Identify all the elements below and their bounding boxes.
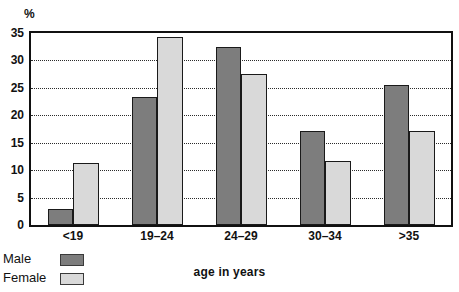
x-tick-label-3: 30–34 (308, 230, 341, 242)
y-tick-label-20: 20 (11, 109, 24, 121)
bar-male-24–29 (216, 47, 242, 225)
y-tick-label-35: 35 (11, 27, 24, 39)
x-axis-title: age in years (0, 265, 459, 279)
x-tick-label-4: >35 (399, 230, 419, 242)
bar-male-<19 (48, 209, 74, 225)
bar-male-19–24 (132, 97, 158, 225)
chart-plot-frame (29, 31, 453, 227)
bar-female-30–34 (325, 161, 351, 225)
bar-female-19–24 (157, 37, 183, 225)
bar-male->35 (384, 85, 410, 225)
y-tick-label-15: 15 (11, 137, 24, 149)
legend-label-male: Male (3, 252, 31, 266)
bar-group (31, 33, 115, 225)
x-tick-label-1: 19–24 (140, 230, 173, 242)
y-tick-label-25: 25 (11, 82, 24, 94)
chart-plot-area (31, 33, 451, 225)
y-tick-label-5: 5 (17, 192, 24, 204)
x-tick-label-2: 24–29 (224, 230, 257, 242)
bar-male-30–34 (300, 131, 326, 225)
bar-female-24–29 (241, 74, 267, 225)
bar-female->35 (409, 131, 435, 225)
x-tick-label-0: <19 (63, 230, 83, 242)
y-tick-label-10: 10 (11, 164, 24, 176)
y-tick-label-0: 0 (17, 219, 24, 231)
y-axis-tick-labels: 05101520253035 (0, 31, 27, 227)
x-axis-tick-labels: <1919–2424–2930–34>35 (29, 230, 453, 248)
bar-female-<19 (73, 163, 99, 225)
bar-group (115, 33, 199, 225)
bar-group (199, 33, 283, 225)
y-axis-unit-label: % (24, 8, 35, 20)
bar-group (367, 33, 451, 225)
y-tick-label-30: 30 (11, 54, 24, 66)
bar-group (283, 33, 367, 225)
